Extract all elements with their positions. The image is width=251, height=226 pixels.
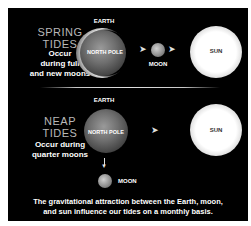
neap-north-pole-label: NORTH POLE: [83, 129, 129, 135]
spring-arrow-icon-1: ➤: [139, 45, 147, 54]
neap-desc-line2: quarter moons: [22, 150, 98, 160]
caption-line1: The gravitational attraction between the…: [10, 197, 246, 207]
neap-tides-title: NEAP TIDES: [30, 115, 90, 139]
caption: The gravitational attraction between the…: [10, 197, 246, 217]
neap-moon-icon: [98, 174, 112, 188]
section-divider: [40, 87, 220, 88]
spring-north-pole-label: NORTH POLE: [82, 49, 128, 55]
neap-title-line1: NEAP: [30, 115, 90, 127]
spring-earth-label: EARTH: [88, 18, 120, 24]
neap-moon-label: MOON: [118, 178, 148, 184]
neap-title-line2: TIDES: [30, 127, 90, 139]
neap-sun-label: SUN: [202, 127, 230, 133]
spring-moon-icon: [151, 43, 165, 57]
spring-arrow-icon-2: ➤: [168, 45, 176, 54]
neap-down-arrow-icon: ▼: [101, 163, 107, 169]
neap-arrow-icon: ➤: [151, 126, 159, 135]
caption-line2: and sun influence our tides on a monthly…: [10, 207, 246, 217]
neap-earth-label: EARTH: [88, 97, 120, 103]
spring-sun-label: SUN: [202, 48, 230, 54]
spring-moon-label: MOON: [140, 61, 176, 67]
